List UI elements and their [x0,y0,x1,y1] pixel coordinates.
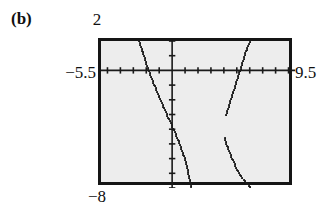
trace-pixel [228,150,230,152]
trace-pixel [188,177,190,179]
trace-pixel [185,163,187,165]
trace-pixel [139,42,141,44]
trace-pixel [159,98,161,100]
trace-pixel [235,83,237,85]
curve-branch [225,41,251,116]
trace-pixel [173,129,175,131]
trace-pixel [225,143,227,145]
trace-pixel [175,133,177,135]
trace-pixel [227,108,229,110]
trace-pixel [249,41,251,43]
trace-pixel [142,53,144,55]
trace-pixel [184,157,186,159]
trace-pixel [168,118,170,120]
trace-pixel [238,73,240,75]
trace-pixel [239,70,241,72]
trace-pixel [187,173,189,175]
trace-pixel [166,115,168,117]
trace-pixel [161,102,163,104]
trace-pixel [229,152,231,154]
trace-pixel [178,140,180,142]
trace-pixel [189,179,191,181]
trace-pixel [227,148,229,150]
trace-pixel [162,104,164,106]
calculator-screen [98,38,292,185]
trace-pixel [187,169,189,171]
trace-pixel [150,76,152,78]
graph-plot-area [101,41,295,188]
trace-pixel [229,100,231,102]
trace-pixel [233,161,235,163]
trace-pixel [147,67,149,69]
trace-pixel [175,135,177,137]
trace-pixel [249,186,251,188]
trace-pixel [171,126,173,128]
trace-pixel [230,154,232,156]
trace-pixel [174,131,176,133]
figure-root: (b) 2 −5.5 9.5 −8 [0,0,336,223]
trace-pixel [144,57,146,59]
trace-pixel [243,56,245,58]
trace-pixel [181,150,183,152]
trace-pixel [230,98,232,100]
trace-pixel [171,124,173,126]
trace-pixel [227,146,229,148]
trace-pixel [144,59,146,61]
trace-pixel [149,74,151,76]
trace-pixel [187,171,189,173]
trace-pixel [225,114,227,116]
trace-pixel [240,66,242,68]
trace-pixel [242,60,244,62]
trace-pixel [155,87,157,89]
trace-pixel [247,45,249,47]
trace-pixel [188,175,190,177]
trace-pixel [145,61,147,63]
trace-pixel [234,165,236,167]
trace-pixel [243,58,245,60]
trace-pixel [226,112,228,114]
window-xmax-label: 9.5 [295,64,316,82]
trace-pixel [190,183,192,185]
trace-pixel [233,89,235,91]
trace-pixel [244,54,246,56]
trace-pixel [149,72,151,74]
trace-pixel [240,68,242,70]
trace-pixel [176,137,178,139]
trace-pixel [224,137,226,139]
trace-pixel [145,63,147,65]
trace-pixel [241,177,243,179]
trace-pixel [180,146,182,148]
trace-pixel [141,48,143,50]
trace-pixel [236,79,238,81]
trace-pixel [228,104,230,106]
trace-pixel [238,172,240,174]
trace-pixel [232,159,234,161]
trace-pixel [246,49,248,51]
trace-pixel [230,156,232,158]
trace-pixel [183,155,185,157]
trace-pixel [190,185,192,187]
trace-pixel [234,163,236,165]
trace-pixel [237,75,239,77]
trace-pixel [143,55,145,57]
trace-pixel [231,96,233,98]
axes-layer [101,41,295,188]
trace-pixel [231,94,233,96]
trace-pixel [224,139,226,141]
trace-pixel [228,106,230,108]
trace-pixel [155,89,157,91]
trace-pixel [142,51,144,53]
trace-pixel [240,175,242,177]
trace-pixel [244,52,246,54]
trace-pixel [154,85,156,87]
trace-pixel [226,110,228,112]
trace-pixel [140,46,142,48]
trace-pixel [234,87,236,89]
trace-pixel [237,170,239,172]
trace-pixel [160,100,162,102]
trace-pixel [179,144,181,146]
trace-pixel [234,85,236,87]
trace-pixel [232,91,234,93]
trace-pixel [190,187,192,188]
trace-pixel [244,180,246,182]
